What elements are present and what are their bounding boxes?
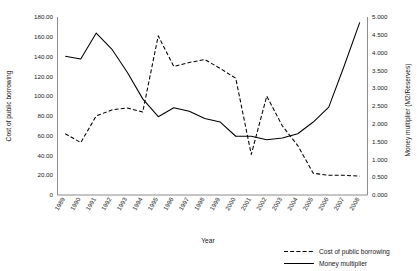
right-tick-label: 3.000 [372, 84, 388, 91]
y2-axis-title: Money multiplier (M2/Reserves) [404, 63, 412, 156]
right-tick-label: 2.000 [372, 120, 388, 127]
left-tick-label: 60.00 [38, 132, 54, 139]
left-tick-label: 100.00 [34, 92, 53, 99]
right-tick-label: 5.000 [372, 13, 388, 20]
right-tick-label: 2.500 [372, 102, 388, 109]
chart-figure: 020.0040.0060.0080.00100.00120.00140.001… [0, 0, 420, 271]
left-tick-label: 20.00 [38, 171, 54, 178]
right-tick-label: 0.000 [372, 191, 388, 198]
chart-background [0, 0, 420, 271]
left-tick-label: 120.00 [34, 73, 53, 80]
right-tick-label: 0.500 [372, 173, 388, 180]
right-tick-label: 3.500 [372, 67, 388, 74]
left-tick-label: 140.00 [34, 53, 53, 60]
chart-canvas: 020.0040.0060.0080.00100.00120.00140.001… [0, 0, 420, 271]
left-tick-label: 160.00 [34, 33, 53, 40]
right-tick-label: 1.000 [372, 156, 388, 163]
right-tick-label: 1.500 [372, 138, 388, 145]
y-axis-title: Cost of public borrowing [5, 70, 13, 141]
left-tick-label: 0 [50, 191, 54, 198]
right-tick-label: 4.000 [372, 49, 388, 56]
legend-label-money-multiplier: Money multiplier [319, 260, 368, 268]
legend-label-cost-of-public-borrowing: Cost of public borrowing [319, 248, 390, 256]
x-axis-title: Year [201, 237, 215, 244]
left-tick-label: 40.00 [38, 152, 54, 159]
right-tick-label: 4.500 [372, 31, 388, 38]
left-tick-label: 180.00 [34, 13, 53, 20]
left-tick-label: 80.00 [38, 112, 54, 119]
